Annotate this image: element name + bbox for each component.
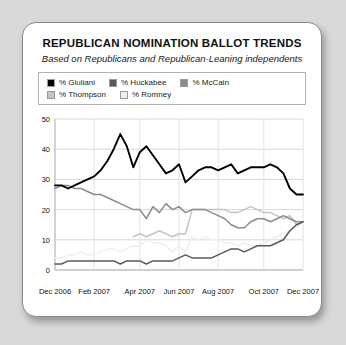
x-axis-tick-label: Apr 2007 <box>125 287 155 296</box>
chart-card: REPUBLICAN NOMINATION BALLOT TRENDS Base… <box>22 22 322 317</box>
legend-item-mccain: % McCain <box>180 78 228 87</box>
x-axis-tick-label: Aug 2007 <box>202 287 234 296</box>
legend-label-thompson: % Thompson <box>59 90 106 99</box>
y-axis-tick-label: 10 <box>42 236 50 245</box>
x-axis-tick-label: Oct 2007 <box>249 287 279 296</box>
x-axis-tick-label: Dec 2007 <box>287 287 319 296</box>
legend-swatch-mccain <box>180 79 188 87</box>
legend-item-thompson: % Thompson <box>47 90 106 99</box>
legend-swatch-romney <box>120 91 128 99</box>
x-axis-labels: Dec 2006Feb 2007Apr 2007Jun 2007Aug 2007… <box>29 286 313 300</box>
legend-label-giuliani: % Giuliani <box>59 78 95 87</box>
legend-label-mccain: % McCain <box>192 78 228 87</box>
y-axis-tick-label: 30 <box>42 175 50 184</box>
legend-row: % Thompson % Romney <box>47 90 299 99</box>
legend-swatch-thompson <box>47 91 55 99</box>
x-axis-tick-label: Jun 2007 <box>164 287 195 296</box>
legend-swatch-giuliani <box>47 79 55 87</box>
line-chart-svg: 01020304050 <box>29 111 313 286</box>
y-axis-tick-label: 50 <box>42 115 50 124</box>
chart-subtitle: Based on Republicans and Republican-Lean… <box>23 53 321 64</box>
chart-legend: % Giuliani % Huckabee % McCain % Thompso… <box>38 72 306 105</box>
x-axis-tick-label: Feb 2007 <box>78 287 110 296</box>
chart-title: REPUBLICAN NOMINATION BALLOT TRENDS <box>23 37 321 50</box>
legend-swatch-huckabee <box>109 79 117 87</box>
legend-label-romney: % Romney <box>132 90 171 99</box>
legend-item-giuliani: % Giuliani <box>47 78 95 87</box>
legend-row: % Giuliani % Huckabee % McCain <box>47 78 299 87</box>
y-axis-tick-label: 40 <box>42 145 50 154</box>
y-axis-tick-label: 0 <box>46 266 50 275</box>
x-axis-tick-label: Dec 2006 <box>39 287 71 296</box>
y-axis-tick-label: 20 <box>42 206 50 215</box>
legend-item-huckabee: % Huckabee <box>109 78 166 87</box>
plot-area: 01020304050 <box>29 111 313 286</box>
legend-label-huckabee: % Huckabee <box>121 78 166 87</box>
legend-item-romney: % Romney <box>120 90 171 99</box>
